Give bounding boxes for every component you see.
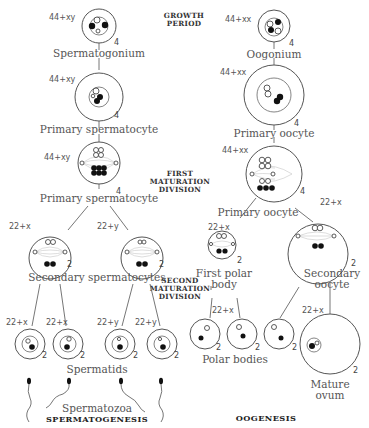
spermatozoon xyxy=(159,378,163,422)
chromosome-label: 22+x xyxy=(320,198,342,207)
division-label: DIVISION xyxy=(159,292,201,301)
oogonium-label: Oogonium xyxy=(247,48,302,60)
spermatid-cell: 22+x 2 xyxy=(6,318,47,360)
growth-period-header: GROWTH PERIOD xyxy=(164,11,204,28)
mature-ovum-cell: 22+x 2 xyxy=(300,306,360,375)
spermatozoon xyxy=(27,378,31,422)
chromosome-label: 44+xy xyxy=(44,153,71,162)
chromatid-count: 4 xyxy=(114,38,119,47)
primary-oocyte-label: Primary oocyte xyxy=(234,127,315,139)
chromosome-label: 44+xx xyxy=(220,68,247,77)
chromatid-count: 2 xyxy=(237,256,242,265)
first-polar-body-label: body xyxy=(211,278,237,290)
first-maturation-header: FIRST MATURATION DIVISION xyxy=(150,169,211,194)
chromatid-count: 2 xyxy=(80,351,85,360)
primary-oocyte-label: Primary oocyte xyxy=(218,206,299,218)
spermatid-cell: 22+x 2 xyxy=(46,318,85,360)
chromosome-label: 22+y xyxy=(97,222,119,231)
chromosome-label: 44+xy xyxy=(49,13,76,22)
chromosome-label: 44+xx xyxy=(222,146,249,155)
oogenesis-title: OOGENESIS xyxy=(236,413,296,423)
spermatids-label: Spermatids xyxy=(66,363,127,375)
chromosome-label: 44+xx xyxy=(225,15,252,24)
primary-spermatocyte-label: Primary spermatocyte xyxy=(40,123,158,135)
primary-oocyte-dividing-cell: 44+xx 4 xyxy=(222,146,305,202)
chromosome-label: 22+x xyxy=(46,318,68,327)
mature-ovum-label: ovum xyxy=(316,389,345,401)
primary-spermatocyte-dividing-cell: 44+xy 4 xyxy=(44,142,121,196)
period-label: PERIOD xyxy=(167,19,202,28)
polar-body-cell: 2 xyxy=(227,319,260,352)
chromosome-label: 22+y xyxy=(97,318,119,327)
primary-spermatocyte-growth-cell: 44+xy 4 xyxy=(49,73,123,121)
division-label: DIVISION xyxy=(159,185,201,194)
chromatid-count: 2 xyxy=(255,343,260,352)
chromosome-label: 22+x xyxy=(6,318,28,327)
chromosome-label: 22+x xyxy=(302,306,324,315)
chromatid-count: 2 xyxy=(133,351,138,360)
chromatid-count: 2 xyxy=(353,366,358,375)
chromosome-label: 44+xy xyxy=(49,75,76,84)
spermatozoa-label: Spermatozoa xyxy=(62,402,132,414)
secondary-oocyte-label: oocyte xyxy=(315,278,350,290)
spermatid-cell: 22+y 2 xyxy=(135,318,179,360)
chromatid-count: 2 xyxy=(216,343,221,352)
primary-spermatocyte-label: Primary spermatocyte xyxy=(40,192,158,204)
polar-body-cell: 22+x 2 xyxy=(190,306,234,352)
chromatid-count: 4 xyxy=(300,187,305,196)
chromatid-count: 2 xyxy=(42,351,47,360)
polar-body-cell: 2 xyxy=(264,319,297,352)
chromatid-count: 2 xyxy=(67,260,72,269)
primary-oocyte-growth-cell: 44+xx 4 xyxy=(220,65,304,128)
chromatid-count: 4 xyxy=(114,111,119,120)
chromosome-label: 22+y xyxy=(135,318,157,327)
chromatid-count: 4 xyxy=(289,39,294,48)
oogonium-cell: 44+xx 4 xyxy=(225,10,294,48)
spermatogonium-cell: 44+xy 4 xyxy=(49,9,119,47)
chromatid-count: 2 xyxy=(174,351,179,360)
chromosome-label: 22+x xyxy=(9,222,31,231)
spermatid-cell: 22+y 2 xyxy=(97,318,138,360)
spermatogonium-label: Spermatogonium xyxy=(53,47,145,59)
gametogenesis-diagram: GROWTH PERIOD FIRST MATURATION DIVISION … xyxy=(0,0,369,428)
first-polar-body-cell: 22+x 2 xyxy=(208,223,242,265)
chromosome-label: 22+x xyxy=(208,223,230,232)
polar-bodies-label: Polar bodies xyxy=(202,353,268,365)
chromatid-count: 2 xyxy=(292,343,297,352)
secondary-spermatocytes-label: Secondary spermatocytes xyxy=(28,271,165,283)
chromosome-label: 22+x xyxy=(212,306,234,315)
spermatogenesis-title: SPERMATOGENESIS xyxy=(46,414,148,424)
chromatid-count: 2 xyxy=(159,260,164,269)
